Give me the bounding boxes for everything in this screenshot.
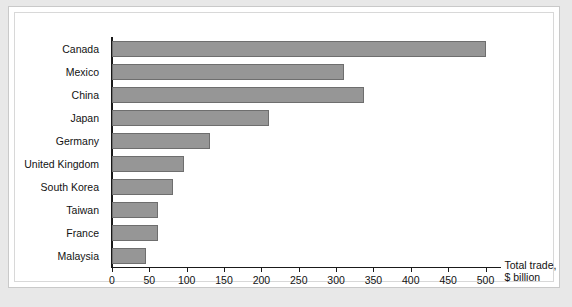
x-tick-mark	[187, 268, 188, 272]
x-tick-mark	[224, 268, 225, 272]
bar	[112, 156, 184, 172]
x-tick-mark	[261, 268, 262, 272]
x-axis-title-line2: $ billion	[505, 272, 557, 284]
x-tick-mark	[486, 268, 487, 272]
x-tick-mark	[336, 268, 337, 272]
x-tick-mark	[411, 268, 412, 272]
category-label: Taiwan	[66, 205, 99, 216]
figure-frame: CanadaMexicoChinaJapanGermanyUnited King…	[8, 6, 560, 288]
category-label: Mexico	[66, 67, 99, 78]
category-label: China	[72, 90, 99, 101]
x-tick-mark	[448, 268, 449, 272]
category-label: South Korea	[41, 182, 99, 193]
category-axis-labels: CanadaMexicoChinaJapanGermanyUnited King…	[15, 13, 107, 281]
category-label: France	[66, 228, 99, 239]
bar	[112, 133, 210, 149]
bar-chart-plot-area: CanadaMexicoChinaJapanGermanyUnited King…	[15, 13, 553, 281]
category-label: Canada	[62, 44, 99, 55]
bar	[112, 179, 173, 195]
bar	[112, 87, 364, 103]
x-tick-label: 50	[144, 275, 156, 286]
x-tick-label: 150	[215, 275, 233, 286]
x-axis-title-line1: Total trade,	[505, 260, 557, 272]
bar	[112, 248, 146, 264]
x-tick-label: 500	[477, 275, 495, 286]
x-tick-label: 350	[365, 275, 383, 286]
x-tick-mark	[299, 268, 300, 272]
x-tick-mark	[373, 268, 374, 272]
category-label: Japan	[70, 113, 99, 124]
bar	[112, 110, 269, 126]
x-tick-label: 100	[178, 275, 196, 286]
x-tick-label: 0	[109, 275, 115, 286]
category-label: Malaysia	[58, 251, 99, 262]
category-label: Germany	[56, 136, 99, 147]
x-axis-line	[111, 267, 501, 268]
x-tick-mark	[149, 268, 150, 272]
x-axis-title: Total trade, $ billion	[505, 260, 557, 284]
x-tick-label: 450	[439, 275, 457, 286]
x-tick-mark	[112, 268, 113, 272]
bar	[112, 225, 158, 241]
category-label: United Kingdom	[24, 159, 99, 170]
figure-panel: CanadaMexicoChinaJapanGermanyUnited King…	[14, 12, 554, 282]
x-tick-label: 250	[290, 275, 308, 286]
bar	[112, 41, 486, 57]
bar	[112, 202, 158, 218]
x-tick-label: 200	[253, 275, 271, 286]
x-tick-label: 300	[327, 275, 345, 286]
bar	[112, 64, 344, 80]
x-tick-label: 400	[402, 275, 420, 286]
